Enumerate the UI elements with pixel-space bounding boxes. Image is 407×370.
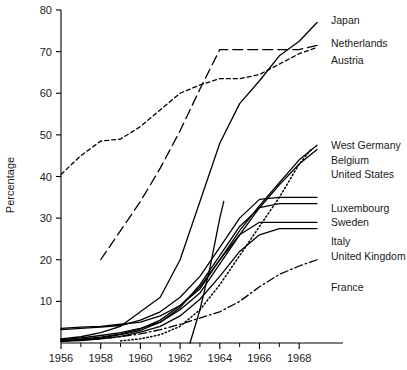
series-label-united-states: United States [331, 168, 394, 180]
x-axis-tick-label: 1962 [168, 352, 192, 364]
x-axis-tick-label: 1964 [208, 352, 232, 364]
x-axis-tick-label: 1968 [287, 352, 311, 364]
series-label-belgium: Belgium [331, 154, 369, 166]
x-axis-tick-label: 1960 [128, 352, 152, 364]
y-axis-tick-label: 10 [40, 295, 52, 307]
series-label-united-kingdom: United Kingdom [331, 250, 406, 262]
y-axis-tick-label: 40 [40, 171, 52, 183]
series-label-netherlands: Netherlands [331, 37, 388, 49]
line-chart: 1020304050607080 19561958196019621964196… [0, 0, 407, 370]
series-label-japan: Japan [331, 14, 360, 26]
y-axis-tick-label: 20 [40, 254, 52, 266]
y-axis-tick-label: 60 [40, 87, 52, 99]
series-label-france: France [331, 281, 364, 293]
series-label-italy: Italy [331, 235, 351, 247]
series-label-sweden: Sweden [331, 216, 369, 228]
y-axis-title: Percentage [4, 157, 16, 213]
y-axis-tick-label: 70 [40, 46, 52, 58]
series-label-west-germany: West Germany [331, 139, 402, 151]
y-axis-tick-label: 50 [40, 129, 52, 141]
y-axis-tick-label: 80 [40, 4, 52, 16]
x-axis-tick-label: 1958 [88, 352, 112, 364]
x-axis-tick-label: 1956 [49, 352, 73, 364]
y-axis-tick-label: 30 [40, 212, 52, 224]
chart-container: 1020304050607080 19561958196019621964196… [0, 0, 407, 370]
x-axis-tick-label: 1966 [247, 352, 271, 364]
series-label-luxembourg: Luxembourg [331, 202, 390, 214]
series-label-austria: Austria [331, 54, 364, 66]
